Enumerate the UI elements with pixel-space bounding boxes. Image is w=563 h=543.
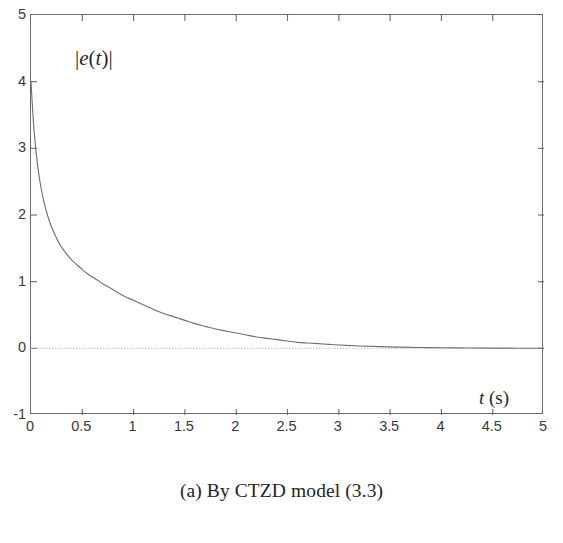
x-tick-label: 4 — [436, 418, 444, 434]
y-tick-label: -1 — [13, 406, 26, 422]
y-axis-label-bar-close: | — [108, 46, 112, 70]
y-tick-label: 4 — [18, 73, 26, 89]
y-tick-label: 0 — [18, 339, 26, 355]
x-tick-label: 2.5 — [277, 418, 297, 434]
x-tick-label: 1.5 — [174, 418, 194, 434]
x-tick-label: 2 — [231, 418, 239, 434]
y-tick-label: 3 — [18, 139, 26, 155]
x-tick-label: 4.5 — [482, 418, 502, 434]
y-tick-label: 5 — [18, 6, 26, 22]
figure-container: |e(t)| t (s) 00.511.522.533.544.55 -1012… — [0, 0, 563, 543]
figure-caption: (a) By CTZD model (3.3) — [0, 480, 563, 502]
y-axis-label: |e(t)| — [75, 46, 113, 71]
x-axis-label-unit: (s) — [489, 387, 509, 408]
x-tick-label: 1 — [129, 418, 137, 434]
plot-area: |e(t)| t (s) — [30, 14, 543, 414]
plot-svg — [31, 15, 544, 415]
tick-marks — [31, 15, 544, 415]
x-tick-label: 3.5 — [379, 418, 399, 434]
y-axis-label-paren-open: ( — [89, 46, 96, 70]
y-tick-label: 1 — [18, 273, 26, 289]
x-tick-label: 0.5 — [71, 418, 91, 434]
x-tick-label: 0 — [26, 418, 34, 434]
data-series-line — [31, 82, 544, 349]
x-tick-label: 3 — [334, 418, 342, 434]
x-tick-label: 5 — [539, 418, 547, 434]
y-axis-label-e: e — [79, 46, 88, 70]
y-tick-label: 2 — [18, 206, 26, 222]
x-axis-label: t (s) — [479, 387, 509, 409]
